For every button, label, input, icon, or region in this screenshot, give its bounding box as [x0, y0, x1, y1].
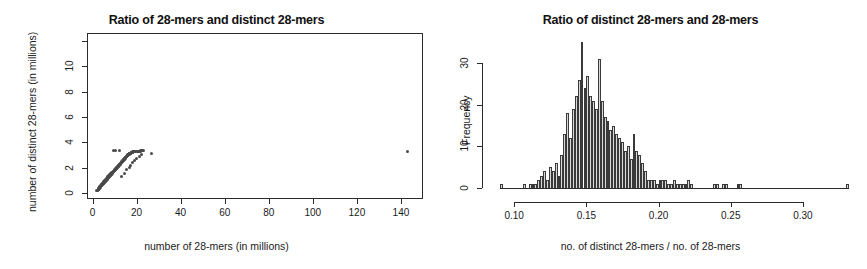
scatter-x-tick-label: 120 — [337, 207, 377, 218]
scatter-y-tick — [82, 117, 87, 118]
scatter-y-tick-label: 10 — [63, 57, 77, 75]
scatter-x-tick-label: 40 — [161, 207, 201, 218]
histogram-x-tick-label: 0.20 — [634, 210, 684, 221]
scatter-y-axis-label: number of distinct 28-mers (in millions) — [26, 32, 38, 212]
histogram-x-axis-label: no. of distinct 28-mers / no. of 28-mers — [434, 240, 867, 252]
scatter-point — [150, 152, 153, 155]
scatter-y-tick-label: 6 — [63, 108, 77, 126]
scatter-x-tick — [269, 199, 270, 204]
scatter-y-tick-label: 2 — [63, 159, 77, 177]
histogram-x-tick-label: 0.25 — [706, 210, 756, 221]
scatter-x-tick — [93, 199, 94, 204]
histogram-x-tick-label: 0.30 — [778, 210, 828, 221]
histogram-y-tick-label: 20 — [458, 96, 472, 114]
histogram-x-tick-label: 0.10 — [489, 210, 539, 221]
scatter-x-tick — [137, 199, 138, 204]
histogram-plot-area — [494, 38, 852, 188]
scatter-y-tick-label: 0 — [63, 184, 77, 202]
scatter-x-tick — [181, 199, 182, 204]
histogram-x-tick-label: 0.15 — [561, 210, 611, 221]
histogram-y-tick — [477, 146, 482, 147]
figure-panel-pair: Ratio of 28-mers and distinct 28-mers nu… — [0, 0, 867, 269]
histogram-panel: Ratio of distinct 28-mers and 28-mers Fr… — [434, 0, 867, 269]
scatter-x-tick-label: 80 — [249, 207, 289, 218]
histogram-y-tick-label: 0 — [458, 179, 472, 197]
histogram-y-tick — [477, 63, 482, 64]
histogram-baseline — [500, 188, 849, 189]
scatter-y-tick — [82, 66, 87, 67]
scatter-y-tick — [82, 193, 87, 194]
histogram-x-tick — [659, 202, 660, 207]
scatter-y-tick-label: 4 — [63, 133, 77, 151]
histogram-y-tick-label: 10 — [458, 137, 472, 155]
scatter-x-axis-label: number of 28-mers (in millions) — [0, 240, 433, 252]
scatter-y-tick — [82, 142, 87, 143]
scatter-y-tick — [82, 168, 87, 169]
scatter-point — [140, 153, 143, 156]
scatter-y-tick — [82, 92, 87, 93]
scatter-y-tick — [82, 41, 87, 42]
histogram-y-tick — [477, 188, 482, 189]
scatter-x-tick-label: 100 — [293, 207, 333, 218]
scatter-x-tick — [401, 199, 402, 204]
histogram-title: Ratio of distinct 28-mers and 28-mers — [434, 13, 867, 27]
scatter-x-tick-label: 60 — [205, 207, 245, 218]
scatter-x-tick-label: 140 — [381, 207, 421, 218]
histogram-y-axis-line — [482, 63, 483, 188]
scatter-y-tick-label: 8 — [63, 83, 77, 101]
scatter-x-tick — [313, 199, 314, 204]
scatter-panel: Ratio of 28-mers and distinct 28-mers nu… — [0, 0, 433, 269]
scatter-title: Ratio of 28-mers and distinct 28-mers — [0, 13, 433, 27]
scatter-point — [123, 172, 126, 175]
histogram-x-tick — [514, 202, 515, 207]
scatter-point — [120, 175, 123, 178]
scatter-plot-area — [87, 33, 423, 199]
scatter-x-tick-label: 0 — [73, 207, 113, 218]
histogram-y-tick — [477, 105, 482, 106]
scatter-x-tick — [225, 199, 226, 204]
scatter-x-tick — [357, 199, 358, 204]
histogram-x-tick — [586, 202, 587, 207]
histogram-x-tick — [731, 202, 732, 207]
histogram-y-tick-label: 30 — [458, 54, 472, 72]
scatter-x-tick-label: 20 — [117, 207, 157, 218]
histogram-x-tick — [803, 202, 804, 207]
